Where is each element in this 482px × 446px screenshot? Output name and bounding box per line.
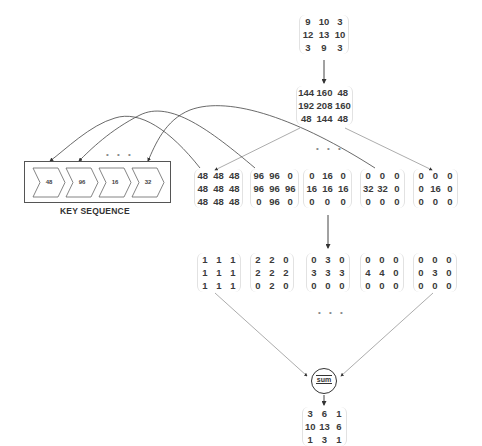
output-matrix: 361 10136 131 — [302, 407, 347, 446]
key-chevron: 16 — [98, 167, 132, 198]
masked-matrix: 0160 161616 000 — [303, 169, 352, 208]
ellipsis-bottom: • • • — [318, 308, 346, 317]
masked-matrix: 000 32320 000 — [360, 169, 405, 208]
key-chevron: 48 — [32, 167, 66, 198]
sum-node: sum — [311, 368, 337, 394]
ellipsis-top: • • • — [316, 144, 344, 153]
key-chevron: 96 — [65, 167, 99, 198]
masked-matrix: 96960 969696 0960 — [250, 169, 299, 208]
key-ellipsis: • • • — [106, 150, 134, 159]
masked-matrix: 000 0160 000 — [413, 169, 458, 208]
key-chevron: 32 — [131, 167, 165, 198]
scaled-matrix: 14416048 192208160 4814448 — [296, 86, 353, 125]
masked-matrix: 484848 484848 484848 — [194, 169, 243, 208]
index-matrix: 030 333 000 — [306, 253, 350, 292]
index-matrix: 111 111 111 — [197, 253, 241, 292]
key-sequence-box: 48 96 16 32 — [24, 161, 171, 203]
index-matrix: 000 030 000 — [413, 253, 457, 292]
key-sequence-label: KEY SEQUENCE — [60, 206, 130, 216]
index-matrix: 220 222 020 — [250, 253, 294, 292]
index-matrix: 000 440 000 — [360, 253, 404, 292]
input-matrix: 9103 121310 393 — [299, 15, 349, 54]
